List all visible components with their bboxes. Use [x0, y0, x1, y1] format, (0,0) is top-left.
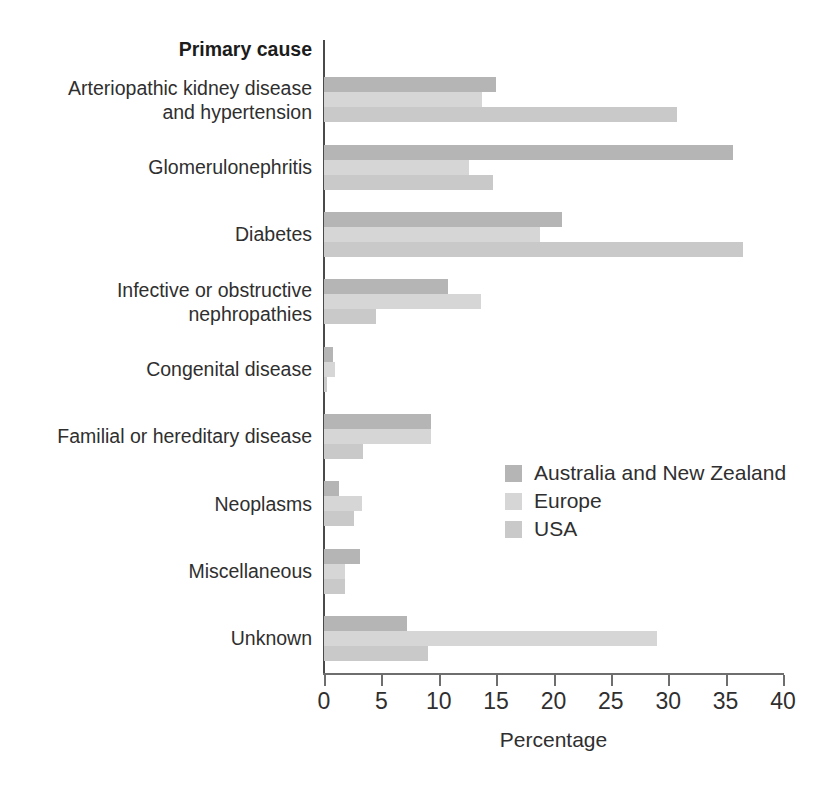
bar — [324, 444, 363, 459]
category-label: Neoplasms — [0, 492, 312, 516]
bar — [324, 309, 376, 324]
x-tick — [496, 675, 498, 686]
legend-item: Australia and New Zealand — [505, 459, 786, 487]
x-tick-label: 15 — [466, 688, 526, 715]
x-tick-label: 35 — [696, 688, 756, 715]
bar — [324, 579, 345, 594]
x-tick — [554, 675, 556, 686]
bar — [324, 175, 493, 190]
bar-group — [324, 549, 783, 594]
legend-swatch-icon — [505, 521, 522, 538]
bar — [324, 481, 339, 496]
x-tick — [324, 675, 326, 686]
axis-header-primary-cause: Primary cause — [0, 38, 312, 61]
x-tick-label: 10 — [409, 688, 469, 715]
bar — [324, 377, 327, 392]
bar — [324, 145, 733, 160]
bar-group — [324, 347, 783, 392]
bar — [324, 616, 407, 631]
bar — [324, 564, 345, 579]
legend-item: Europe — [505, 487, 786, 515]
bar — [324, 414, 431, 429]
category-label: Unknown — [0, 626, 312, 650]
category-label: Infective or obstructive nephropathies — [0, 278, 312, 326]
x-tick — [668, 675, 670, 686]
legend-label: Europe — [534, 489, 602, 513]
bar — [324, 549, 360, 564]
category-label: Familial or hereditary disease — [0, 424, 312, 448]
category-label: Arteriopathic kidney disease and hyperte… — [0, 76, 312, 124]
x-tick-label: 40 — [753, 688, 813, 715]
bar-group — [324, 212, 783, 257]
x-tick — [726, 675, 728, 686]
x-tick-label: 25 — [581, 688, 641, 715]
x-tick-label: 30 — [638, 688, 698, 715]
x-tick — [381, 675, 383, 686]
bar — [324, 294, 481, 309]
category-label: Diabetes — [0, 222, 312, 246]
legend-label: Australia and New Zealand — [534, 461, 786, 485]
legend-swatch-icon — [505, 465, 522, 482]
bar — [324, 242, 743, 257]
bar-group — [324, 414, 783, 459]
bar — [324, 646, 428, 661]
plot-area — [324, 66, 783, 672]
bar-group — [324, 616, 783, 661]
bar-group — [324, 145, 783, 190]
legend-label: USA — [534, 517, 577, 541]
bar — [324, 107, 677, 122]
bar — [324, 227, 540, 242]
x-axis-title: Percentage — [324, 728, 783, 752]
chart-figure: Primary cause Arteriopathic kidney disea… — [0, 0, 835, 798]
category-label: Congenital disease — [0, 357, 312, 381]
legend-item: USA — [505, 515, 786, 543]
bar — [324, 496, 362, 511]
category-label: Glomerulonephritis — [0, 155, 312, 179]
category-label-column: Arteriopathic kidney disease and hyperte… — [0, 66, 312, 672]
bar — [324, 429, 431, 444]
bar-group — [324, 77, 783, 122]
legend-swatch-icon — [505, 493, 522, 510]
bar — [324, 160, 469, 175]
x-tick-label: 0 — [294, 688, 354, 715]
category-label: Miscellaneous — [0, 559, 312, 583]
bar — [324, 347, 333, 362]
chart-legend: Australia and New ZealandEuropeUSA — [505, 459, 786, 543]
bar — [324, 212, 562, 227]
x-tick-label: 20 — [524, 688, 584, 715]
x-tick — [611, 675, 613, 686]
x-tick — [439, 675, 441, 686]
bar — [324, 631, 657, 646]
bar — [324, 279, 448, 294]
bar-group — [324, 279, 783, 324]
bar — [324, 511, 354, 526]
x-tick-label: 5 — [351, 688, 411, 715]
x-tick — [783, 675, 785, 686]
bar — [324, 77, 496, 92]
bar — [324, 362, 335, 377]
bar — [324, 92, 482, 107]
